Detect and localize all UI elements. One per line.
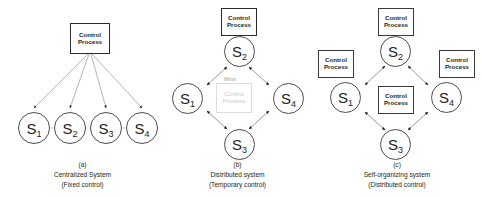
control-process-line2: Process xyxy=(324,64,348,71)
node-s4-label: S4 xyxy=(281,91,296,106)
node-s1-index: 1 xyxy=(190,99,195,109)
node-s3-index: 3 xyxy=(242,145,247,155)
control-process-line2: Process xyxy=(445,64,469,71)
control-process-line2: Process xyxy=(78,39,102,46)
control-process-line2: Process xyxy=(384,22,408,29)
s4-control-process-box: Control Process xyxy=(439,50,475,78)
panel-centralized-system: Control Process S1 S2 S3 S4 (a) Centrali… xyxy=(0,0,165,197)
node-s1: S1 xyxy=(172,83,203,114)
control-process-line2: Process xyxy=(384,100,408,107)
caption-b-line2: (Temporary control) xyxy=(160,180,315,190)
s1-control-process-box: Control Process xyxy=(318,50,354,78)
node-s4-label: S4 xyxy=(134,121,149,136)
edge-s3-s4 xyxy=(249,111,269,129)
node-s4-label: S4 xyxy=(439,90,454,105)
node-s3: S3 xyxy=(380,129,411,160)
node-s2-index: 2 xyxy=(242,52,247,62)
s2-control-process-box: Control Process xyxy=(221,8,257,36)
node-s4: S4 xyxy=(273,83,304,114)
node-s2-label: S2 xyxy=(388,44,403,59)
panel-distributed-system: Control Process Mirror Control Process S… xyxy=(160,0,315,197)
node-s2-label: S2 xyxy=(232,44,247,59)
node-s1-label: S1 xyxy=(180,91,195,106)
mirror-label: Mirror xyxy=(224,77,236,82)
caption-a-line1: Centralized System xyxy=(0,170,165,180)
node-s4-index: 4 xyxy=(145,129,150,139)
s3-control-process-box: Control Process xyxy=(378,86,414,114)
edge-s2-s4 xyxy=(249,67,269,85)
control-process-line2: Process xyxy=(227,22,251,29)
caption-c-line1: Self-organizing system xyxy=(312,170,482,180)
node-s1: S1 xyxy=(18,112,50,144)
caption-panel-a: (a) Centralized System (Fixed control) xyxy=(0,160,165,191)
node-s3: S3 xyxy=(224,129,255,160)
edge-control-to-s1 xyxy=(34,54,88,108)
s2-control-process-box: Control Process xyxy=(378,8,414,36)
edge-s1-s3 xyxy=(365,112,385,130)
node-s2: S2 xyxy=(224,36,255,67)
mirror-line2: Process xyxy=(223,98,245,105)
node-s3-label: S3 xyxy=(98,121,113,136)
edge-s2-s4 xyxy=(408,66,428,85)
node-s2: S2 xyxy=(380,36,411,67)
node-s3: S3 xyxy=(90,112,122,144)
edge-control-to-s3 xyxy=(91,54,106,108)
node-s3-label: S3 xyxy=(388,137,403,152)
node-s1-label: S1 xyxy=(26,121,41,136)
node-s2-index: 2 xyxy=(73,129,78,139)
caption-panel-c: (c) Self-organizing system (Distributed … xyxy=(312,160,482,191)
node-s3-label: S3 xyxy=(232,137,247,152)
node-s3-index: 3 xyxy=(398,145,403,155)
edge-control-to-s4 xyxy=(92,54,142,108)
node-s2-label: S2 xyxy=(62,121,77,136)
mirror-control-process-box: Control Process xyxy=(216,83,252,113)
node-s1-index: 1 xyxy=(37,129,42,139)
node-s1-label: S1 xyxy=(338,90,353,105)
caption-b-line1: Distributed system xyxy=(160,170,315,180)
caption-c-tag: (c) xyxy=(312,160,482,170)
caption-c-line2: (Distributed control) xyxy=(312,180,482,190)
node-s4-index: 4 xyxy=(291,99,296,109)
node-s3-index: 3 xyxy=(109,129,114,139)
caption-a-tag: (a) xyxy=(0,160,165,170)
caption-b-tag: (b) xyxy=(160,160,315,170)
node-s4: S4 xyxy=(126,112,158,144)
node-s4: S4 xyxy=(431,82,462,113)
edge-s1-s3 xyxy=(207,111,227,129)
panel-self-organizing-system: Control Process Control Process Control … xyxy=(312,0,482,197)
node-s1-index: 1 xyxy=(348,98,353,108)
caption-a-line2: (Fixed control) xyxy=(0,180,165,190)
node-s4-index: 4 xyxy=(449,98,454,108)
central-control-process-box: Control Process xyxy=(70,23,110,54)
control-architectures-figure: Control Process S1 S2 S3 S4 (a) Centrali… xyxy=(0,0,482,197)
edge-s3-s4 xyxy=(408,112,428,130)
node-s1: S1 xyxy=(330,82,361,113)
node-s2-index: 2 xyxy=(398,52,403,62)
caption-panel-b: (b) Distributed system (Temporary contro… xyxy=(160,160,315,191)
edge-s1-s2 xyxy=(365,66,385,85)
node-s2: S2 xyxy=(54,112,86,144)
